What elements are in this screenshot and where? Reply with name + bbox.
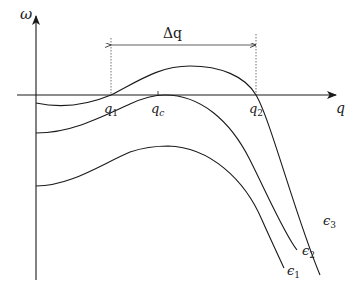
y-axis-label: ω: [20, 5, 32, 23]
svg-text:q1: q1: [104, 101, 118, 118]
svg-text:ϵ2: ϵ2: [302, 243, 315, 260]
curve-epsilon-1: [36, 146, 284, 268]
curve-epsilon-2: [36, 95, 297, 250]
svg-text:qc: qc: [151, 101, 164, 118]
q1-label: q1: [104, 101, 118, 118]
x-axis-label: q: [336, 100, 345, 116]
svg-text:q2: q2: [249, 101, 263, 118]
svg-text:ϵ1: ϵ1: [287, 263, 300, 280]
svg-text:ϵ3: ϵ3: [323, 213, 336, 230]
curve-epsilon-3: [36, 66, 320, 275]
qc-label: qc: [151, 101, 164, 118]
epsilon-1-label: ϵ1: [287, 263, 300, 280]
epsilon-3-label: ϵ3: [323, 213, 336, 230]
delta-q-label: Δq: [163, 25, 182, 41]
q2-label: q2: [249, 101, 263, 118]
dispersion-diagram: ω q Δq q1 qc q2 ϵ3 ϵ2 ϵ1: [0, 0, 353, 295]
epsilon-2-label: ϵ2: [302, 243, 315, 260]
